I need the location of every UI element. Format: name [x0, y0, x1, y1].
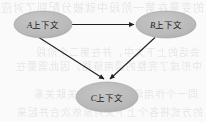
figure-canvas: 的变量在第一阶段中就被分配到了对应的 会话的上下文中，并在第二个阶段 中形成了完…: [0, 0, 206, 122]
node-b-label-suffix: 上下文: [155, 20, 182, 30]
node-b[interactable]: B上下文: [136, 11, 196, 38]
node-c-label: C上下文: [91, 93, 124, 103]
node-c[interactable]: C上下文: [76, 82, 138, 112]
node-a[interactable]: A上下文: [14, 11, 72, 38]
edge-b-to-c: [110, 38, 155, 80]
edge-a-to-c: [39, 38, 104, 80]
node-a-label-suffix: 上下文: [32, 20, 59, 30]
context-graph-diagram: A上下文 B上下文 C上下文: [0, 0, 206, 122]
node-b-label: B上下文: [150, 20, 182, 30]
node-a-label: A上下文: [26, 20, 59, 30]
node-c-label-suffix: 上下文: [96, 93, 123, 103]
